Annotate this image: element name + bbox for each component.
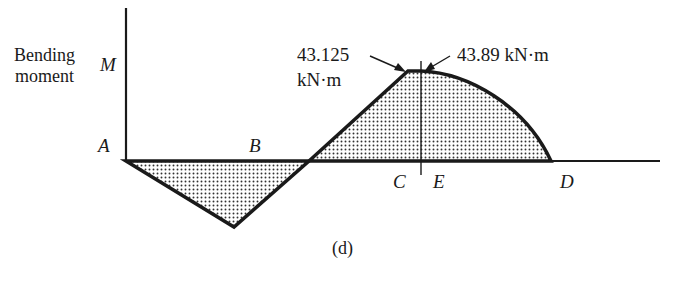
arrow-to-c-icon (370, 56, 406, 72)
axis-title-line2: moment (14, 66, 75, 87)
point-label-e: E (433, 172, 445, 192)
axis-symbol-m: M (100, 55, 116, 75)
arrow-to-e-icon (424, 56, 450, 72)
axis-title: Bending moment (14, 45, 75, 87)
positive-moment-region (309, 71, 551, 161)
figure-caption: (d) (332, 238, 353, 258)
point-label-b: B (249, 136, 261, 156)
point-label-d: D (560, 172, 574, 192)
axis-title-line1: Bending (14, 45, 75, 66)
negative-moment-region (126, 161, 309, 227)
annotation-c-value: 43.125 (297, 45, 349, 65)
point-label-a: A (98, 136, 110, 156)
annotation-c-unit: kN·m (297, 70, 341, 90)
annotation-e-value: 43.89 kN·m (457, 45, 549, 65)
point-label-c: C (393, 172, 406, 192)
